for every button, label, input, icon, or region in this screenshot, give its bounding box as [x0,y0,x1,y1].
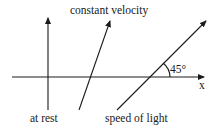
worldline-speed-of-light [117,21,206,110]
worldline-constant-velocity [79,21,110,110]
angle-label: 45° [170,63,187,75]
constant-velocity-label: constant velocity [70,4,148,17]
at-rest-label: at rest [30,112,59,124]
spacetime-diagram: x at rest constant velocity speed of lig… [0,0,218,130]
x-axis-label: x [199,79,205,91]
speed-of-light-label: speed of light [105,112,168,125]
angle-arc [163,63,170,77]
